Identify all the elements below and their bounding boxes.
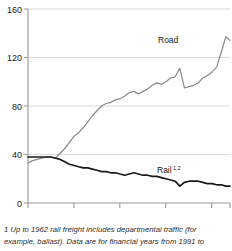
x-tick-label-1951: 1951 [18,211,38,212]
road-label: Road [158,35,179,45]
x-tick-label-1961: 1961 [64,211,84,212]
y-tick-label-40: 40 [12,150,22,160]
y-tick-label-0: 0 [17,199,22,209]
chart-plot-area: 160 120 80 40 0 Road Rail 1,2 1951 1961 … [0,0,232,212]
x-tick-label-1981: 1981 [156,211,176,212]
x-tick-label-1995: 1995 [209,211,229,212]
y-axis [24,9,28,203]
y-tick-label-80: 80 [12,102,22,112]
x-tick-label-1971: 1971 [110,211,130,212]
freight-trends-chart: 160 120 80 40 0 Road Rail 1,2 1951 1961 … [0,0,232,251]
y-tick-label-160: 160 [7,5,22,15]
y-tick-label-120: 120 [7,53,22,63]
rail-label: Rail [157,165,172,175]
rail-label-superscript: 1,2 [173,165,181,171]
x-axis [28,203,230,208]
series-line-road [28,37,230,163]
series-line-rail [28,157,230,186]
chart-footnote: 1 Up to 1962 rail freight includes depar… [4,224,228,247]
